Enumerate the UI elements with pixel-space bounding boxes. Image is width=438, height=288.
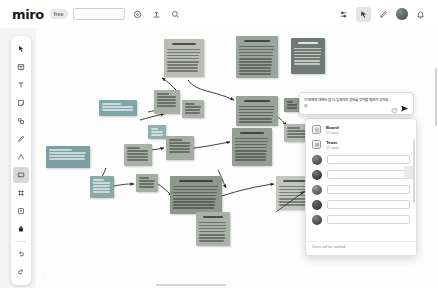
canvas-vertical-scrollbar[interactable] <box>435 68 438 126</box>
note-text-line <box>239 64 272 66</box>
sticky-note[interactable] <box>236 96 278 126</box>
note-text-line <box>139 186 154 188</box>
sticky-note[interactable] <box>46 146 90 168</box>
note-text-line <box>294 51 321 53</box>
person-name-placeholder <box>327 200 410 209</box>
note-text-line <box>169 142 190 144</box>
miro-logo[interactable]: miro <box>12 7 44 22</box>
emoji-icon[interactable] <box>391 100 398 107</box>
plan-badge[interactable]: free <box>49 9 69 19</box>
canvas-horizontal-scrollbar[interactable] <box>156 284 226 287</box>
topbar-right-group <box>336 7 438 22</box>
frames-icon[interactable] <box>336 7 351 22</box>
minimap-handle[interactable]: ⁝ <box>44 271 47 276</box>
connector-arrow[interactable] <box>188 80 234 100</box>
note-text-line <box>127 153 148 155</box>
sticky-note[interactable] <box>148 125 166 139</box>
note-text-line <box>179 180 212 182</box>
note-text-line <box>167 55 199 57</box>
note-text-line <box>287 101 293 103</box>
text-tool[interactable] <box>13 77 29 93</box>
mention-message-text[interactable]: 이 문제에 대해서 좀 더 입체적인 정보를 찾아볼 필요가 있어요 @ <box>304 98 391 109</box>
note-text-line <box>169 151 190 153</box>
note-text-line <box>283 180 306 182</box>
sticky-note[interactable] <box>232 128 272 166</box>
note-text-line <box>235 138 268 140</box>
sticky-note-tool[interactable] <box>13 95 29 111</box>
connector-arrow[interactable] <box>222 184 274 196</box>
toolbar-divider <box>15 241 27 242</box>
sticky-note[interactable] <box>124 144 152 166</box>
sticky-note[interactable] <box>164 39 204 77</box>
sticky-note[interactable] <box>99 100 137 116</box>
connector-arrow[interactable] <box>114 184 134 186</box>
connector-arrow[interactable] <box>194 142 230 148</box>
user-avatar[interactable] <box>396 8 408 20</box>
sticky-note[interactable] <box>90 176 114 198</box>
connection-line-tool[interactable] <box>13 149 29 165</box>
redo-tool[interactable] <box>13 264 29 280</box>
shapes-tool[interactable] <box>13 113 29 129</box>
note-text-line <box>203 216 223 218</box>
note-text-line <box>239 112 273 114</box>
sticky-note[interactable] <box>136 174 158 192</box>
mention-person-row[interactable] <box>306 152 416 167</box>
note-text-line <box>139 177 149 179</box>
note-text-line <box>151 131 163 133</box>
more-apps-tool[interactable] <box>13 221 29 237</box>
team-group-text: Team 17 users <box>326 140 339 150</box>
send-icon[interactable] <box>400 99 409 108</box>
note-text-line <box>127 159 148 161</box>
sticky-note[interactable] <box>170 176 222 214</box>
undo-tool[interactable] <box>13 246 29 262</box>
person-avatar <box>312 215 322 225</box>
note-text-line <box>157 105 176 107</box>
sticky-note[interactable] <box>291 38 325 74</box>
person-avatar <box>312 200 322 210</box>
upload-tool[interactable] <box>13 203 29 219</box>
mention-group-board[interactable]: Board 11 users <box>306 122 416 137</box>
mention-composer[interactable]: 이 문제에 대해서 좀 더 입체적인 정보를 찾아볼 필요가 있어요 @ <box>299 92 414 115</box>
note-text-line <box>239 109 274 111</box>
cursor-icon[interactable] <box>356 7 371 22</box>
note-text-line <box>239 70 271 72</box>
mention-person-row[interactable] <box>306 212 416 227</box>
notifications-icon[interactable] <box>413 7 428 22</box>
upload-icon[interactable] <box>149 7 163 21</box>
comment-tool[interactable] <box>13 167 29 183</box>
select-tool[interactable] <box>13 41 29 57</box>
dropdown-scrollbar[interactable] <box>413 139 415 203</box>
dropdown-footer-note: Users will be notified. <box>306 241 416 252</box>
mention-person-row[interactable] <box>306 167 416 182</box>
mention-group-team[interactable]: Team 17 users <box>306 137 416 152</box>
person-avatar <box>312 185 322 195</box>
sticky-note[interactable] <box>284 98 300 112</box>
sticky-note[interactable] <box>166 136 194 160</box>
note-text-line <box>151 128 158 130</box>
sticky-note[interactable] <box>182 100 204 118</box>
sticky-note[interactable] <box>154 90 180 114</box>
sticky-note[interactable] <box>236 36 278 78</box>
board-name-input[interactable] <box>73 8 125 20</box>
settings-icon[interactable] <box>130 7 144 21</box>
pen-tool[interactable] <box>13 131 29 147</box>
board-group-name: Board <box>326 125 339 130</box>
note-text-line <box>157 99 176 101</box>
connector-arrow[interactable] <box>140 114 164 120</box>
mention-person-row[interactable] <box>306 182 416 197</box>
comment-pen-icon[interactable] <box>376 7 391 22</box>
note-text-line <box>287 104 297 106</box>
mention-person-row[interactable] <box>306 197 416 212</box>
team-group-name: Team <box>326 140 339 145</box>
mention-dropdown[interactable]: Board 11 users Team 17 users Users will … <box>305 118 417 256</box>
note-text-line <box>199 228 226 230</box>
note-text-line <box>185 103 195 105</box>
templates-tool[interactable] <box>13 59 29 75</box>
note-text-line <box>294 60 320 62</box>
connector-arrow[interactable] <box>162 78 176 90</box>
sticky-note[interactable] <box>196 212 230 246</box>
frame-tool[interactable] <box>13 185 29 201</box>
search-icon[interactable] <box>168 7 182 21</box>
board-group-count: 11 users <box>326 131 339 135</box>
note-text-line <box>169 139 182 141</box>
